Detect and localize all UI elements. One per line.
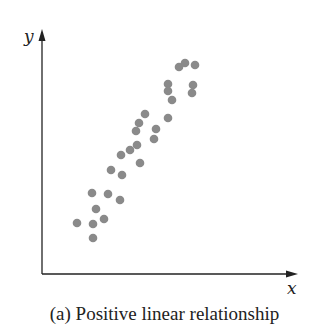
data-point (135, 119, 144, 128)
y-axis-label: y (23, 26, 34, 46)
data-point (136, 159, 145, 168)
data-point (152, 125, 161, 134)
data-point (104, 190, 113, 199)
data-point (164, 87, 173, 96)
data-point (73, 219, 82, 228)
data-point (133, 141, 142, 150)
data-point (164, 114, 173, 123)
data-point (117, 151, 126, 160)
data-point (88, 189, 97, 198)
scatter-plot: y x (0, 0, 329, 328)
data-point (100, 215, 109, 224)
data-point (181, 59, 190, 68)
data-point (150, 135, 159, 144)
y-axis-arrow-icon (39, 29, 46, 41)
data-point (89, 234, 98, 243)
axes: y x (23, 26, 298, 298)
data-point (141, 110, 150, 119)
data-point (191, 61, 200, 70)
x-axis-label: x (287, 278, 297, 298)
data-point (168, 96, 177, 105)
x-axis-arrow-icon (286, 271, 298, 278)
data-point (118, 171, 127, 180)
data-points (73, 59, 200, 243)
data-point (89, 220, 98, 229)
figure-caption: (a) Positive linear relationship (0, 303, 329, 325)
data-point (116, 196, 125, 205)
data-point (189, 81, 198, 90)
data-point (126, 146, 135, 155)
data-point (107, 166, 116, 175)
data-point (132, 127, 141, 136)
data-point (188, 89, 197, 98)
data-point (92, 205, 101, 214)
